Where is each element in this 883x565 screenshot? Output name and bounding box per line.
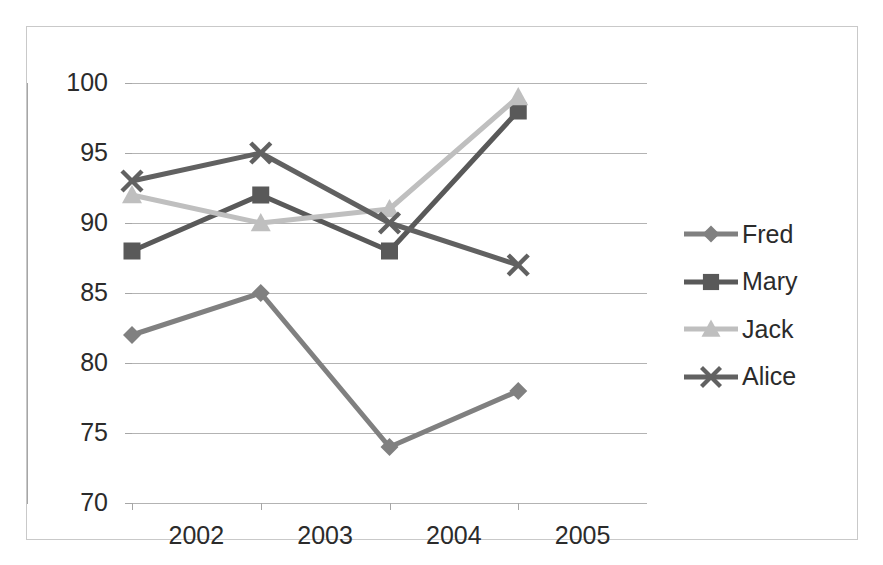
series-line	[132, 97, 518, 223]
square-marker-icon	[381, 243, 398, 260]
square-marker-icon	[252, 187, 269, 204]
plot-area	[132, 83, 647, 503]
y-axis-tick-label: 90	[46, 210, 108, 235]
y-axis-tick	[125, 153, 132, 154]
x-axis-tick	[390, 503, 391, 510]
x-axis-tick	[132, 503, 133, 510]
y-axis-tick-label: 85	[46, 280, 108, 305]
legend-item-label: Alice	[742, 364, 796, 389]
y-axis-tick	[125, 83, 132, 84]
legend-item-label: Jack	[742, 317, 793, 342]
legend-item-fred[interactable]: Fred	[682, 219, 793, 249]
x-axis-tick	[261, 503, 262, 510]
y-axis-tick-label: 75	[46, 420, 108, 445]
diamond-marker-icon	[702, 225, 719, 242]
y-axis-tick	[125, 503, 132, 504]
x-axis-tick-label: 2004	[394, 523, 514, 548]
series-fred	[123, 284, 527, 456]
legend-item-jack[interactable]: Jack	[682, 314, 793, 344]
series-layer	[132, 83, 647, 503]
square-marker-icon	[682, 267, 740, 297]
chart-frame: 100959085807570 2002200320042005 FredMar…	[26, 26, 858, 540]
y-axis-line	[27, 83, 28, 504]
triangle-marker-icon	[682, 314, 740, 344]
x-axis-tick-label: 2003	[265, 523, 385, 548]
x-cross-marker-icon	[682, 362, 740, 392]
square-marker-icon	[703, 273, 719, 289]
y-axis-tick-label: 95	[46, 140, 108, 165]
legend-item-alice[interactable]: Alice	[682, 362, 796, 392]
y-axis-tick	[125, 223, 132, 224]
y-axis-tick-label: 70	[46, 490, 108, 515]
y-axis-tick	[125, 293, 132, 294]
series-line	[132, 111, 518, 251]
legend-item-label: Fred	[742, 222, 793, 247]
square-marker-icon	[124, 243, 141, 260]
series-mary	[124, 103, 527, 260]
x-axis-tick-label: 2002	[136, 523, 256, 548]
legend-item-label: Mary	[742, 269, 798, 294]
x-axis-tick-label: 2005	[523, 523, 643, 548]
series-jack	[122, 87, 528, 231]
series-line	[132, 293, 518, 447]
y-axis-tick-label: 100	[46, 70, 108, 95]
diamond-marker-icon	[509, 382, 527, 400]
diamond-marker-icon	[123, 326, 141, 344]
diamond-marker-icon	[682, 219, 740, 249]
triangle-marker-icon	[508, 87, 528, 105]
x-axis-tick	[518, 503, 519, 510]
y-axis-tick-label: 80	[46, 350, 108, 375]
y-axis-tick	[125, 363, 132, 364]
legend-item-mary[interactable]: Mary	[682, 267, 798, 297]
y-axis-tick	[125, 433, 132, 434]
